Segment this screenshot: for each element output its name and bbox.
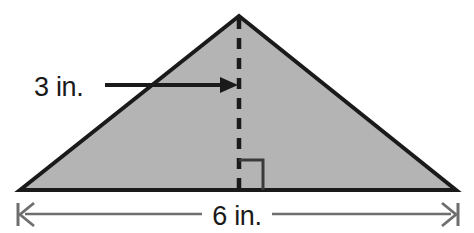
base-label: 6 in. (212, 201, 262, 231)
height-label: 3 in. (34, 72, 84, 102)
figure-canvas: 3 in. 6 in. (0, 0, 474, 233)
geometry-diagram-figure: 3 in. 6 in. (0, 0, 474, 233)
